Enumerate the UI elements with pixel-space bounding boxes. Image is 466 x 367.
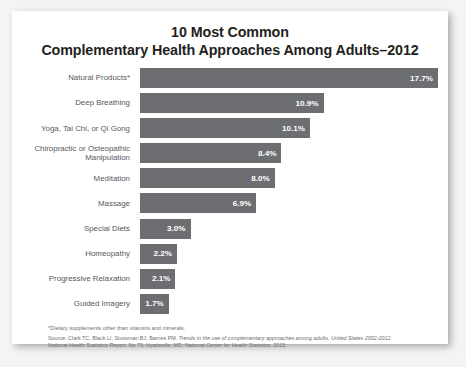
bar-yoga-tai-chi-qi-gong: 10.1% — [140, 118, 310, 138]
chart-title: 10 Most Common Complementary Health Appr… — [12, 11, 448, 59]
bar-row: Homeopathy 2.2% — [28, 244, 438, 264]
bar-homeopathy: 2.2% — [140, 244, 177, 264]
chart-card: 10 Most Common Complementary Health Appr… — [12, 11, 448, 344]
bar-label-guided-imagery: Guided Imagery — [28, 299, 140, 308]
bar-value-chiropractic-osteopathic-manipulation: 8.4% — [258, 149, 276, 158]
bar-value-special-diets: 3.0% — [167, 224, 185, 233]
source-suffix: National Health Statistics Report, No 79… — [48, 342, 287, 348]
chart-title-line-2: Complementary Health Approaches Among Ad… — [12, 42, 448, 60]
chart-footnotes: *Dietary supplements other than vitamins… — [48, 324, 434, 349]
bar-chiropractic-osteopathic-manipulation: 8.4% — [140, 143, 281, 163]
bar-label-chiropractic-osteopathic-manipulation: Chiropractic or Osteopathic Manipulation — [28, 144, 140, 162]
bar-track: 6.9% — [140, 193, 438, 213]
bar-track: 17.7% — [140, 68, 438, 88]
bar-label-deep-breathing: Deep Breathing — [28, 98, 140, 107]
bar-row: Progressive Relaxation 2.1% — [28, 269, 438, 289]
bar-track: 8.4% — [140, 143, 438, 163]
bar-track: 10.9% — [140, 93, 438, 113]
bar-label-progressive-relaxation: Progressive Relaxation — [28, 274, 140, 283]
bar-label-yoga-tai-chi-qi-gong: Yoga, Tai Chi, or Qi Gong — [28, 124, 140, 133]
bar-label-natural-products: Natural Products* — [28, 73, 140, 82]
bar-row: Chiropractic or Osteopathic Manipulation… — [28, 143, 438, 163]
bar-massage: 6.9% — [140, 193, 256, 213]
bar-value-massage: 6.9% — [233, 199, 251, 208]
bar-row: Yoga, Tai Chi, or Qi Gong 10.1% — [28, 118, 438, 138]
bar-value-guided-imagery: 1.7% — [145, 299, 163, 308]
bar-deep-breathing: 10.9% — [140, 93, 324, 113]
bar-label-massage: Massage — [28, 199, 140, 208]
bar-value-yoga-tai-chi-qi-gong: 10.1% — [282, 124, 305, 133]
bar-row: Meditation 8.0% — [28, 168, 438, 188]
source-prefix: Source: Clark TC, Black LI, Stussman BJ,… — [48, 335, 179, 341]
bar-row: Guided Imagery 1.7% — [28, 294, 438, 314]
bar-row: Massage 6.9% — [28, 193, 438, 213]
bar-label-homeopathy: Homeopathy — [28, 249, 140, 258]
bar-track: 8.0% — [140, 168, 438, 188]
footnote-dietary-supplements: *Dietary supplements other than vitamins… — [48, 324, 434, 332]
bar-track: 2.2% — [140, 244, 438, 264]
bar-track: 1.7% — [140, 294, 438, 314]
bar-row: Deep Breathing 10.9% — [28, 93, 438, 113]
bar-row: Special Diets 3.0% — [28, 219, 438, 239]
bar-natural-products: 17.7% — [140, 68, 438, 88]
bar-progressive-relaxation: 2.1% — [140, 269, 175, 289]
bar-row: Natural Products* 17.7% — [28, 68, 438, 88]
bar-track: 3.0% — [140, 219, 438, 239]
bar-label-special-diets: Special Diets — [28, 224, 140, 233]
bar-chart-plot-area: Natural Products* 17.7% Deep Breathing 1… — [12, 68, 448, 314]
bar-value-progressive-relaxation: 2.1% — [152, 274, 170, 283]
bar-meditation: 8.0% — [140, 168, 275, 188]
source-title-italic: Trends in the use of complementary appro… — [179, 335, 392, 341]
bar-value-deep-breathing: 10.9% — [296, 99, 319, 108]
bar-value-homeopathy: 2.2% — [154, 249, 172, 258]
bar-value-natural-products: 17.7% — [410, 74, 433, 83]
source-citation: Source: Clark TC, Black LI, Stussman BJ,… — [48, 335, 434, 350]
bar-track: 10.1% — [140, 118, 438, 138]
bar-special-diets: 3.0% — [140, 219, 191, 239]
bar-guided-imagery: 1.7% — [140, 294, 169, 314]
bar-track: 2.1% — [140, 269, 438, 289]
bar-value-meditation: 8.0% — [251, 174, 269, 183]
bar-label-meditation: Meditation — [28, 174, 140, 183]
chart-title-line-1: 10 Most Common — [12, 24, 448, 42]
